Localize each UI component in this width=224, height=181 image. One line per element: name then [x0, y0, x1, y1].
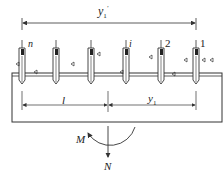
pile-label-n: n	[28, 39, 33, 49]
diagram-canvas	[0, 0, 224, 181]
pile-label-i: i	[129, 39, 132, 49]
pile-foundation-diagram: y1′ n i 2 1 l y1 M N	[0, 0, 224, 181]
pile-5	[158, 40, 164, 84]
pile-label-2: 2	[165, 38, 171, 49]
load-symbols	[88, 126, 135, 157]
dimension-l-y1	[22, 91, 196, 112]
pile-label-1: 1	[200, 38, 206, 49]
pile-3	[88, 40, 94, 84]
pile-2	[53, 40, 59, 84]
label-moment-M: M	[76, 134, 85, 145]
pile-6	[193, 40, 199, 84]
pile-1	[19, 40, 25, 84]
piles	[19, 40, 199, 84]
label-axial-N: N	[104, 161, 111, 172]
label-y1-prime: y1′	[98, 5, 108, 20]
soil-symbols	[16, 52, 213, 76]
pile-cap	[12, 73, 222, 122]
label-y1: y1	[148, 93, 156, 107]
dimension-y1-prime	[22, 18, 196, 30]
label-l: l	[62, 95, 65, 106]
